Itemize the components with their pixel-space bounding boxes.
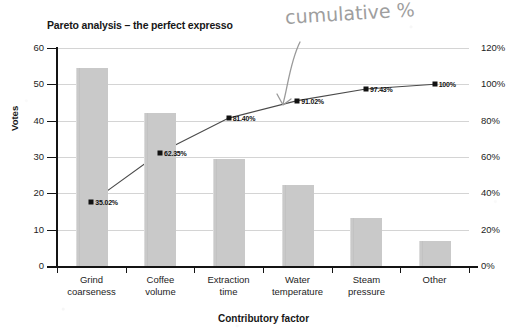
y-axis-tick-label: 60 bbox=[33, 42, 44, 53]
x-axis-category-label: Watertemperature bbox=[263, 274, 332, 297]
secondary-y-axis-tick-label: 120% bbox=[481, 42, 505, 53]
cumulative-data-label: 35.02% bbox=[95, 199, 118, 206]
category-label-line: coarseness bbox=[57, 286, 126, 298]
y-axis-tick-mark bbox=[47, 48, 56, 49]
y-axis-tick-mark bbox=[47, 193, 56, 194]
x-axis-tick-mark bbox=[126, 268, 127, 273]
secondary-y-axis-tick-label: 20% bbox=[481, 224, 500, 235]
category-label-line: time bbox=[194, 286, 263, 298]
category-label-line: Grind bbox=[57, 274, 126, 286]
secondary-y-axis-tick-label: 100% bbox=[481, 78, 505, 89]
y-axis-tick-mark bbox=[47, 157, 56, 158]
x-axis-tick-mark bbox=[469, 268, 470, 273]
secondary-y-axis-tick-label: 80% bbox=[481, 115, 500, 126]
handwritten-cumulative-percent-note: cumulative % bbox=[284, 0, 415, 28]
category-label-line: volume bbox=[126, 286, 195, 298]
category-label-line: Steam bbox=[332, 274, 401, 286]
cumulative-marker bbox=[89, 200, 94, 205]
y-axis-tick-label: 20 bbox=[33, 187, 44, 198]
category-label-line: pressure bbox=[332, 286, 401, 298]
plot-area bbox=[57, 48, 469, 266]
x-axis-category-label: Grindcoarseness bbox=[57, 274, 126, 297]
secondary-y-axis-tick-label: 40% bbox=[481, 187, 500, 198]
y-axis-tick-mark bbox=[47, 121, 56, 122]
category-label-line: Coffee bbox=[126, 274, 195, 286]
bar-other bbox=[419, 241, 451, 266]
cumulative-marker bbox=[295, 98, 300, 103]
category-label-line: temperature bbox=[263, 286, 332, 298]
category-label-line: Other bbox=[400, 274, 469, 286]
y-axis-tick-label: 40 bbox=[33, 115, 44, 126]
bar-water-temperature bbox=[282, 185, 314, 266]
y-axis-tick-label: 10 bbox=[33, 224, 44, 235]
category-label-line: Extraction bbox=[194, 274, 263, 286]
cumulative-marker bbox=[158, 150, 163, 155]
bar-coffee-volume bbox=[144, 113, 176, 266]
bar-extraction-time bbox=[213, 159, 245, 266]
x-axis-tick-mark bbox=[332, 268, 333, 273]
bar-steam-pressure bbox=[350, 218, 382, 266]
cumulative-data-label: 100% bbox=[439, 81, 456, 88]
x-axis-tick-mark bbox=[194, 268, 195, 273]
category-label-line: Water bbox=[263, 274, 332, 286]
x-axis-tick-mark bbox=[263, 268, 264, 273]
x-axis-title: Contributory factor bbox=[0, 313, 527, 324]
y-axis-tick-label: 50 bbox=[33, 78, 44, 89]
y-axis-tick-mark bbox=[47, 230, 56, 231]
cumulative-marker bbox=[226, 116, 231, 121]
x-axis-tick-mark bbox=[57, 268, 58, 273]
y-axis-tick-mark bbox=[47, 266, 56, 267]
y-axis-tick-mark bbox=[47, 84, 56, 85]
y-axis-tick-label: 0 bbox=[39, 260, 44, 271]
cumulative-polyline bbox=[91, 84, 434, 202]
y-axis-tick-label: 30 bbox=[33, 151, 44, 162]
cumulative-data-label: 91.02% bbox=[301, 98, 324, 105]
secondary-y-axis-tick-label: 0% bbox=[481, 260, 495, 271]
cumulative-marker bbox=[364, 87, 369, 92]
chart-title: Pareto analysis – the perfect expresso bbox=[47, 19, 233, 31]
x-axis-category-label: Other bbox=[400, 274, 469, 286]
cumulative-marker bbox=[432, 82, 437, 87]
cumulative-data-label: 62.35% bbox=[164, 150, 187, 157]
pareto-chart-figure: Pareto analysis – the perfect expresso 0… bbox=[0, 0, 527, 336]
bar-grind-coarseness bbox=[76, 68, 108, 266]
x-axis-category-label: Coffeevolume bbox=[126, 274, 195, 297]
cumulative-data-label: 81.40% bbox=[233, 115, 256, 122]
secondary-y-axis-tick-label: 60% bbox=[481, 151, 500, 162]
cumulative-line bbox=[57, 48, 469, 266]
x-axis-category-label: Steampressure bbox=[332, 274, 401, 297]
x-axis-category-label: Extractiontime bbox=[194, 274, 263, 297]
y-axis-title: Votes bbox=[9, 106, 20, 131]
x-axis-tick-mark bbox=[400, 268, 401, 273]
cumulative-data-label: 97.43% bbox=[370, 86, 393, 93]
